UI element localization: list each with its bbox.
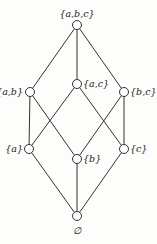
labels-group: {a,b,c}{a,b}{a,c}{b,c}{a}{b}{c}∅ xyxy=(0,8,157,236)
edge-ac-a xyxy=(29,84,77,149)
node-abc xyxy=(73,21,82,30)
node-b xyxy=(73,155,82,164)
edge-ac-c xyxy=(77,84,124,149)
node-label-ab: {a,b} xyxy=(0,86,23,97)
node-label-bc: {b,c} xyxy=(130,86,157,97)
node-c xyxy=(120,145,129,154)
node-label-empty: ∅ xyxy=(73,225,82,236)
node-ab xyxy=(26,88,35,97)
node-bc xyxy=(120,88,129,97)
edge-ab-b xyxy=(30,92,77,159)
edge-abc-ab xyxy=(30,25,77,92)
diagram-canvas: {a,b,c}{a,b}{a,c}{b,c}{a}{b}{c}∅ xyxy=(0,0,157,244)
node-ac xyxy=(73,80,82,89)
node-empty xyxy=(73,212,82,221)
node-label-a: {a} xyxy=(5,143,23,154)
node-label-b: {b} xyxy=(83,153,101,164)
edge-a-empty xyxy=(29,149,77,216)
node-label-c: {c} xyxy=(130,143,147,154)
edge-ab-a xyxy=(29,92,30,149)
node-a xyxy=(25,145,34,154)
edge-bc-b xyxy=(77,92,124,159)
hasse-diagram: {a,b,c}{a,b}{a,c}{b,c}{a}{b}{c}∅ xyxy=(0,0,157,244)
edges-group xyxy=(29,25,124,216)
node-label-abc: {a,b,c} xyxy=(59,8,94,19)
node-label-ac: {a,c} xyxy=(83,78,109,89)
